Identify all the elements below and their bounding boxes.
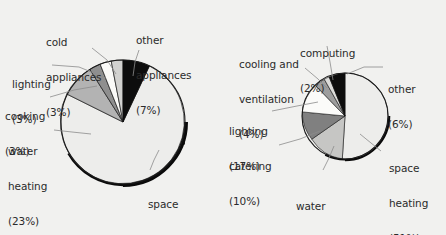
label-computing: computing (2%): [300, 25, 355, 118]
label-other-right-line2: (6%): [388, 119, 415, 131]
label-catering-line1: catering: [229, 161, 272, 173]
label-water-heating-left-line1: water: [8, 146, 47, 158]
label-other-appliances-line1: other: [136, 35, 191, 47]
label-space-heating-left-line1: space: [148, 199, 187, 211]
label-catering: catering (10%): [229, 138, 272, 231]
label-cold-appliances-line3: (3%): [46, 107, 101, 119]
label-space-heating-left: space heating (61%): [148, 176, 187, 235]
label-cooling-ventilation-line1: cooling and: [239, 59, 299, 71]
label-water-heating-left-line2: heating: [8, 181, 47, 193]
label-cold-appliances-line1: cold: [46, 37, 101, 49]
label-water-heating-left: water heating (23%): [8, 123, 47, 235]
label-lighting-right-line1: lighting: [229, 126, 268, 138]
label-space-heating-right: space heating (51%): [389, 140, 428, 235]
label-water-heating-left-line3: (23%): [8, 216, 47, 228]
label-space-heating-right-line2: heating: [389, 198, 428, 210]
label-other-appliances: other appliances (7%): [136, 12, 191, 140]
label-space-heating-right-line3: (51%): [389, 233, 428, 235]
label-space-heating-right-line1: space: [389, 163, 428, 175]
label-cold-appliances: cold appliances (3%): [46, 14, 101, 142]
label-space-heating-left-line2: heating: [148, 234, 187, 235]
label-other-appliances-line3: (7%): [136, 105, 191, 117]
label-computing-line2: (2%): [300, 83, 355, 95]
figure-canvas: cold appliances (3%) other appliances (7…: [0, 0, 446, 235]
label-other-appliances-line2: appliances: [136, 70, 191, 82]
label-cooking-line1: cooking: [5, 111, 45, 123]
label-computing-line1: computing: [300, 48, 355, 60]
label-other-right-line1: other: [388, 84, 415, 96]
label-water-heating-right-line1: water: [296, 201, 335, 213]
label-water-heating-right: water heating (10%): [296, 178, 335, 235]
label-cold-appliances-line2: appliances: [46, 72, 101, 84]
label-catering-line2: (10%): [229, 196, 272, 208]
